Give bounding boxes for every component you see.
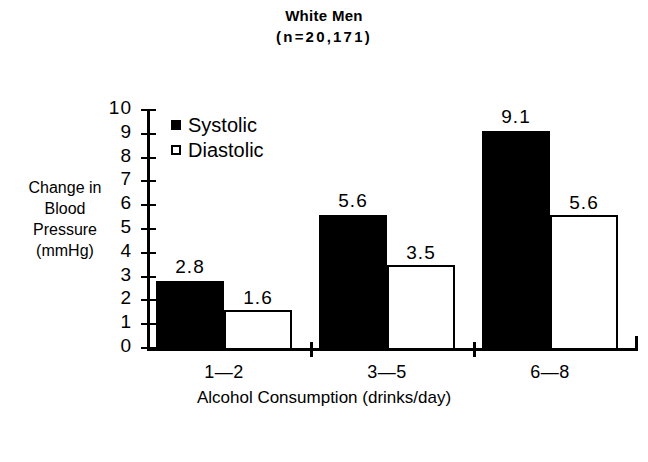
legend: Systolic Diastolic — [171, 112, 264, 162]
legend-swatch-systolic-icon — [171, 120, 181, 130]
y-axis-label-line-3: Pressure — [6, 219, 124, 240]
legend-label-diastolic: Diastolic — [188, 140, 264, 160]
y-axis-tick-label: 5 — [120, 217, 132, 236]
bar-diastolic-group-3: 5.6 — [550, 215, 618, 348]
y-axis-tick: 10 — [141, 109, 156, 111]
y-axis-tick: 3 — [141, 276, 156, 278]
legend-item-systolic: Systolic — [171, 112, 264, 137]
y-axis-tick: 6 — [141, 204, 156, 206]
x-axis-category-label: 6—8 — [530, 362, 570, 382]
bar-systolic-group-2: 5.6 — [319, 215, 387, 348]
legend-item-diastolic: Diastolic — [171, 137, 264, 162]
y-axis-label: Change in Blood Pressure (mmHg) — [6, 177, 124, 261]
bar-value-label: 1.6 — [243, 288, 272, 308]
bar-value-label: 3.5 — [406, 243, 435, 263]
legend-label-systolic: Systolic — [188, 115, 257, 135]
y-axis-tick: 2 — [141, 299, 156, 301]
y-axis-tick-label: 1 — [120, 312, 132, 331]
y-axis-tick: 8 — [141, 157, 156, 159]
y-axis-tick-label: 3 — [120, 265, 132, 284]
y-axis-tick: 1 — [141, 323, 156, 325]
y-axis-label-line-4: (mmHg) — [6, 240, 124, 261]
bar-value-label: 5.6 — [338, 191, 367, 211]
bar-value-label: 5.6 — [569, 193, 598, 213]
title-block: White Men (n=20,171) — [0, 6, 648, 48]
y-axis-tick-label: 8 — [120, 146, 132, 165]
y-axis-tick: 9 — [141, 133, 156, 135]
chart-subtitle: (n=20,171) — [0, 26, 648, 48]
x-axis-end-tick — [635, 336, 638, 351]
legend-swatch-diastolic-icon — [171, 145, 181, 155]
y-axis-tick-label: 10 — [109, 98, 132, 117]
x-axis-category-label: 1—2 — [204, 362, 244, 382]
x-axis-label: Alcohol Consumption (drinks/day) — [0, 388, 648, 408]
bar-systolic-group-1: 2.8 — [156, 281, 224, 348]
chart-figure: White Men (n=20,171) Change in Blood Pre… — [0, 0, 648, 462]
x-axis-spine — [147, 348, 637, 351]
bar-diastolic-group-1: 1.6 — [224, 310, 292, 348]
y-axis-tick: 0 — [141, 347, 156, 349]
y-axis-tick-label: 7 — [120, 169, 132, 188]
y-axis-label-line-1: Change in — [6, 177, 124, 198]
y-axis-tick-label: 4 — [120, 241, 132, 260]
bar-diastolic-group-2: 3.5 — [387, 265, 455, 348]
y-axis-tick-label: 6 — [120, 193, 132, 212]
y-axis-tick: 4 — [141, 252, 156, 254]
y-axis-tick-label: 0 — [120, 336, 132, 355]
x-axis-tick — [473, 342, 476, 357]
y-axis-label-line-2: Blood — [6, 198, 124, 219]
chart-title: White Men — [0, 6, 648, 26]
bar-value-label: 9.1 — [501, 107, 530, 127]
bar-systolic-group-3: 9.1 — [482, 131, 550, 348]
x-axis-tick — [310, 342, 313, 357]
plot-area: 012345678910 2.81.65.63.59.15.6 1—23—56—… — [148, 110, 637, 348]
x-axis-category-label: 3—5 — [367, 362, 407, 382]
y-axis-tick: 5 — [141, 228, 156, 230]
y-axis-tick-label: 2 — [120, 288, 132, 307]
y-axis-tick: 7 — [141, 180, 156, 182]
y-axis-tick-label: 9 — [120, 122, 132, 141]
bar-value-label: 2.8 — [175, 257, 204, 277]
